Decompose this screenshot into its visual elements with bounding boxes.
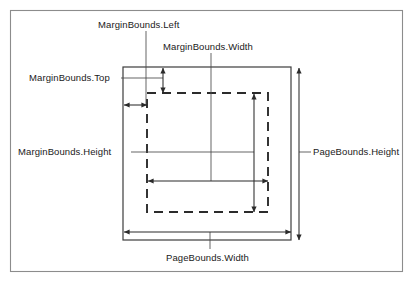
diagram-canvas: MarginBounds.Left MarginBounds.Width Mar… [0, 0, 413, 284]
label-margin-bounds-width: MarginBounds.Width [163, 41, 253, 52]
bounds-diagram: MarginBounds.Left MarginBounds.Width Mar… [0, 0, 413, 284]
margin-bounds-rectangle [147, 93, 268, 212]
label-margin-bounds-top: MarginBounds.Top [29, 72, 110, 83]
label-page-bounds-height: PageBounds.Height [313, 146, 399, 157]
label-margin-bounds-left: MarginBounds.Left [98, 19, 180, 30]
label-page-bounds-width: PageBounds.Width [166, 252, 249, 263]
label-margin-bounds-height: MarginBounds.Height [18, 146, 112, 157]
